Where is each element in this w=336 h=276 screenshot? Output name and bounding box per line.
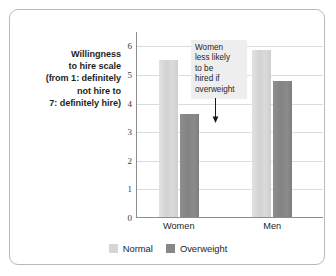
y-tick-label: 5: [128, 70, 133, 79]
bar-women-overweight: [180, 114, 199, 217]
x-category-label-men: Men: [263, 221, 281, 231]
legend-item-overweight[interactable]: Overweight: [166, 243, 227, 254]
legend-label-normal: Normal: [123, 243, 153, 254]
y-tick-label: 0: [128, 214, 133, 223]
legend-swatch-normal: [109, 244, 118, 253]
y-axis-line: [136, 32, 137, 218]
y-tick-label: 4: [128, 99, 133, 108]
y-axis-label: Willingness to hire scale (from 1: defin…: [16, 48, 121, 109]
y-tick-label: 1: [128, 185, 133, 194]
legend-swatch-overweight: [166, 244, 175, 253]
y-tick-label: 3: [128, 128, 133, 137]
y-axis-label-line-1: Willingness: [16, 48, 121, 60]
y-tick-label: 2: [128, 156, 133, 165]
legend-label-overweight: Overweight: [180, 243, 227, 254]
plot-area: 0123456 Women less likely to be hired if…: [136, 32, 323, 218]
annotation-callout: Women less likely to be hired if overwei…: [191, 40, 247, 99]
x-axis-line: [136, 217, 323, 218]
legend: NormalOverweight: [10, 243, 326, 254]
legend-item-normal[interactable]: Normal: [109, 243, 153, 254]
y-axis-label-line-5: 7: definitely hire): [16, 97, 121, 109]
y-axis-label-line-4: not hire to: [16, 85, 121, 97]
figure-frame: Willingness to hire scale (from 1: defin…: [9, 9, 325, 265]
annotation-line-2: less likely: [195, 53, 244, 63]
bar-women-normal: [159, 60, 178, 217]
annotation-line-4: hired if: [195, 74, 244, 84]
bar-men-overweight: [273, 81, 292, 217]
x-axis-categories: WomenMen: [136, 221, 323, 235]
annotation-line-1: Women: [195, 43, 244, 53]
y-tick-label: 6: [128, 42, 133, 51]
bar-men-normal: [252, 50, 271, 217]
y-axis-label-line-2: to hire scale: [16, 60, 121, 72]
x-category-label-women: Women: [163, 221, 195, 231]
annotation-line-5: overweight: [195, 85, 244, 95]
y-axis-label-line-3: (from 1: definitely: [16, 72, 121, 84]
down-arrow-icon: [211, 98, 220, 124]
annotation-line-3: to be: [195, 64, 244, 74]
